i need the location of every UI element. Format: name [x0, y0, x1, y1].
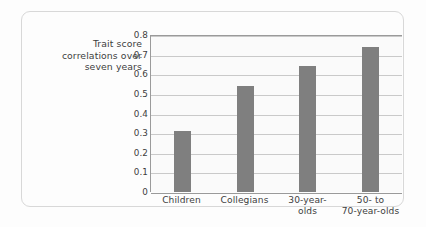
- x-axis-category-labels: ChildrenCollegians30-year-olds50- to70-y…: [150, 195, 402, 217]
- x-axis-category-label: 50- to70-year-olds: [339, 195, 402, 217]
- bar-slot: [214, 36, 277, 192]
- x-axis-category-label-line: Children: [150, 195, 213, 206]
- y-axis-tick-label: 0.4: [120, 109, 148, 119]
- x-axis-category-label-line: olds: [276, 206, 339, 217]
- bar-slot: [339, 36, 402, 192]
- bar-slot: [151, 36, 214, 192]
- y-axis-tick-label: 0.5: [120, 89, 148, 99]
- bar: [174, 131, 191, 192]
- x-axis-category-label: 30-year-olds: [276, 195, 339, 217]
- bar: [362, 47, 379, 192]
- x-axis-category-label-line: 50- to: [339, 195, 402, 206]
- bar-slot: [277, 36, 340, 192]
- bar-series: [151, 36, 402, 192]
- y-axis-tick-label: 0.7: [120, 50, 148, 60]
- y-axis-tick-label: 0.1: [120, 167, 148, 177]
- chart-figure-frame: Trait score correlations over seven year…: [21, 11, 404, 207]
- x-axis-category-label-line: 70-year-olds: [339, 206, 402, 217]
- y-axis-tick-label: 0.8: [120, 30, 148, 40]
- x-axis-category-label: Collegians: [213, 195, 276, 217]
- bar: [299, 66, 316, 192]
- x-axis-category-label-line: Collegians: [213, 195, 276, 206]
- y-axis-tick-labels: 0.80.70.60.50.40.30.20.10: [120, 35, 148, 192]
- plot-area: [150, 35, 402, 192]
- y-axis-tick-label: 0: [120, 187, 148, 197]
- y-axis-tick-label: 0.2: [120, 148, 148, 158]
- y-axis-tick-label: 0.6: [120, 69, 148, 79]
- x-axis-category-label: Children: [150, 195, 213, 217]
- y-axis-tick-label: 0.3: [120, 128, 148, 138]
- bar: [237, 86, 254, 192]
- x-axis-category-label-line: 30-year-: [276, 195, 339, 206]
